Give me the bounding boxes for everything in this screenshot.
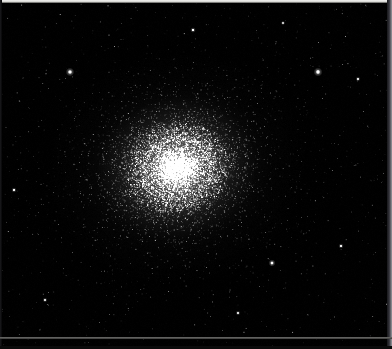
globular-cluster-star-field xyxy=(0,0,392,349)
astronomy-image-viewport xyxy=(0,0,392,349)
